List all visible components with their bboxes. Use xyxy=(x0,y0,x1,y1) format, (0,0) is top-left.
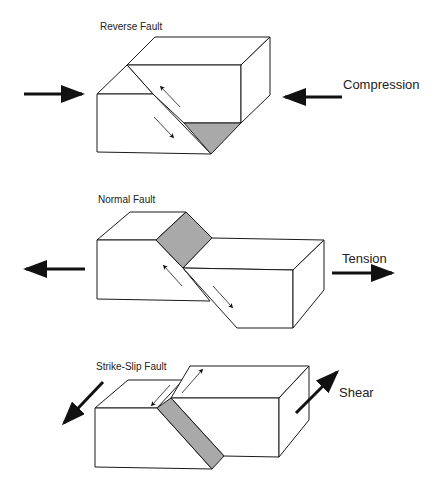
normal-fault-diagram: Normal Fault xyxy=(97,194,324,328)
reverse-fault-diagram: Reverse Fault xyxy=(97,21,270,154)
shear-label: Shear xyxy=(339,385,374,400)
tension-label: Tension xyxy=(342,251,387,266)
normal-fault-title: Normal Fault xyxy=(98,194,155,205)
strike-slip-fault-title: Strike-Slip Fault xyxy=(96,361,167,372)
strike-slip-fault-diagram: Strike-Slip Fault xyxy=(95,361,309,469)
compression-label: Compression xyxy=(343,77,420,92)
fault-types-diagram: Reverse Fault Compression Normal Fault xyxy=(0,0,434,493)
reverse-fault-title: Reverse Fault xyxy=(100,21,162,32)
